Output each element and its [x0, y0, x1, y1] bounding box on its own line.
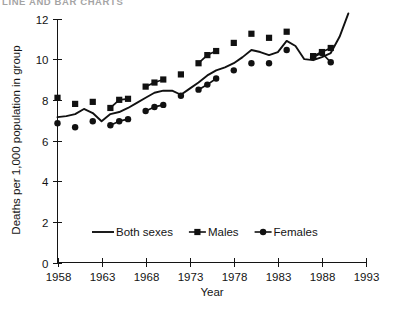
data-point-marker-circle	[54, 120, 60, 126]
y-tick-label: 10	[36, 54, 49, 66]
x-tick-label: 1973	[178, 271, 204, 283]
data-point-marker-circle	[72, 124, 78, 130]
data-point-marker-square	[107, 105, 113, 111]
y-tick-label: 4	[42, 176, 49, 188]
y-tick-label: 8	[42, 95, 48, 107]
x-tick-label: 1958	[46, 271, 72, 283]
data-point-marker-circle	[160, 102, 166, 108]
data-point-marker-circle	[310, 54, 316, 60]
data-point-marker-square	[116, 97, 122, 103]
data-point-marker-square	[266, 35, 272, 41]
data-point-marker-square	[160, 76, 166, 82]
data-point-marker-circle	[248, 60, 254, 66]
clipped-page-header: LINE AND BAR CHARTS	[2, 0, 192, 5]
data-point-marker-circle	[151, 104, 157, 110]
data-point-marker-square	[90, 99, 96, 105]
y-tick-label: 2	[42, 217, 48, 229]
data-point-marker-circle	[328, 59, 334, 65]
legend-item: Females	[255, 226, 318, 238]
x-tick-label: 1983	[266, 271, 292, 283]
data-point-marker-square	[54, 95, 60, 101]
data-point-marker-circle	[107, 122, 113, 128]
x-tick-label: 1963	[90, 271, 116, 283]
legend-label: Both sexes	[116, 226, 173, 238]
data-point-marker-circle	[283, 47, 289, 53]
y-tick-label: 0	[42, 258, 48, 270]
data-point-marker-square	[72, 101, 78, 107]
x-axis-title: Year	[200, 286, 223, 298]
y-axis-tick-labels: 024681012	[36, 14, 49, 270]
data-point-marker-circle	[231, 67, 237, 73]
data-point-marker-circle	[195, 86, 201, 92]
data-point-marker-circle	[266, 60, 272, 66]
data-point-marker-square	[125, 96, 131, 102]
legend-item: Both sexes	[92, 226, 173, 238]
data-point-marker-circle	[142, 108, 148, 114]
x-axis-tick-labels: 19581963196819731978198319881993	[46, 271, 380, 283]
x-tick-label: 1993	[354, 271, 380, 283]
data-point-marker-circle	[204, 81, 210, 87]
data-point-marker-square	[328, 45, 334, 51]
data-point-marker-square	[248, 31, 254, 37]
data-point-marker-square	[284, 29, 290, 35]
x-tick-label: 1968	[134, 271, 160, 283]
legend-marker-circle	[260, 229, 266, 235]
data-point-marker-circle	[213, 75, 219, 81]
data-point-marker-square	[151, 79, 157, 85]
data-point-marker-square	[178, 71, 184, 77]
data-point-marker-circle	[116, 118, 122, 124]
data-point-marker-square	[231, 40, 237, 46]
chart-figure: LINE AND BAR CHARTS 024681012 1958196319…	[0, 0, 410, 313]
data-point-marker-square	[143, 84, 149, 90]
x-tick-label: 1978	[222, 271, 248, 283]
deaths-per-1000-line-chart: 024681012 195819631968197319781983198819…	[0, 0, 410, 313]
legend-label: Females	[274, 226, 318, 238]
legend-label: Males	[208, 226, 239, 238]
legend-item: Males	[189, 226, 239, 238]
chart-legend: Both sexesMalesFemales	[92, 226, 318, 238]
x-tick-label: 1988	[310, 271, 336, 283]
data-point-marker-circle	[319, 50, 325, 56]
data-point-marker-square	[204, 52, 210, 58]
series-line-both-sexes	[58, 13, 349, 121]
series-females	[54, 47, 334, 131]
y-tick-label: 6	[42, 136, 48, 148]
data-point-marker-square	[195, 60, 201, 66]
data-point-marker-circle	[178, 93, 184, 99]
data-point-marker-circle	[90, 118, 96, 124]
y-axis-title: Deaths per 1,000 population in group	[10, 45, 22, 234]
series-males	[54, 29, 333, 111]
data-point-marker-circle	[125, 116, 131, 122]
legend-marker-square	[194, 229, 200, 235]
data-point-marker-square	[213, 48, 219, 54]
y-tick-label: 12	[36, 14, 49, 26]
